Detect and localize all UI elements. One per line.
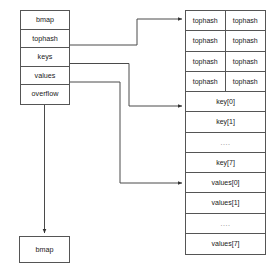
bucket-cell: tophash — [186, 72, 226, 91]
bucket-cell-values1: values[1] — [186, 193, 265, 212]
bucket-cell: tophash — [226, 31, 266, 50]
bucket-layout-panel: tophash tophash tophash tophash tophash … — [185, 10, 266, 255]
overflow-bmap-box: bmap — [19, 236, 70, 263]
bucket-cell-keys-ellipsis: .... — [186, 133, 265, 152]
bucket-row: tophash tophash — [186, 52, 265, 72]
bucket-row: values[0] — [186, 173, 265, 193]
connector-tophash — [70, 19, 182, 45]
bucket-cell: tophash — [226, 72, 266, 91]
bucket-row: tophash tophash — [186, 31, 265, 51]
connector-values — [70, 82, 182, 183]
bucket-row: values[1] — [186, 193, 265, 213]
bucket-row: key[0] — [186, 92, 265, 112]
bucket-cell-values7: values[7] — [186, 234, 265, 254]
bucket-cell-key1: key[1] — [186, 112, 265, 131]
bucket-row: .... — [186, 214, 265, 234]
bucket-cell-key7: key[7] — [186, 153, 265, 172]
diagram-canvas: bmap tophash keys values overflow bmap t… — [0, 0, 274, 280]
bmap-struct: bmap tophash keys values overflow — [20, 10, 70, 105]
bucket-row: key[1] — [186, 112, 265, 132]
bucket-cell: tophash — [186, 11, 226, 30]
connector-keys — [70, 64, 182, 107]
bucket-cell: tophash — [186, 31, 226, 50]
bucket-cell: tophash — [226, 11, 266, 30]
bucket-row: tophash tophash — [186, 72, 265, 92]
bucket-cell-values0: values[0] — [186, 173, 265, 192]
bucket-row: values[7] — [186, 234, 265, 254]
bucket-cell-values-ellipsis: .... — [186, 214, 265, 233]
bucket-row: tophash tophash — [186, 11, 265, 31]
overflow-bmap-label: bmap — [20, 237, 69, 262]
bucket-row: .... — [186, 133, 265, 153]
bucket-cell-key0: key[0] — [186, 92, 265, 111]
bmap-field-bmap: bmap — [21, 11, 69, 30]
bucket-cell: tophash — [186, 52, 226, 71]
bucket-cell: tophash — [226, 52, 266, 71]
bmap-field-overflow: overflow — [21, 85, 69, 104]
bucket-row: key[7] — [186, 153, 265, 173]
bmap-field-tophash: tophash — [21, 30, 69, 49]
bmap-field-keys: keys — [21, 48, 69, 67]
bmap-field-values: values — [21, 67, 69, 86]
